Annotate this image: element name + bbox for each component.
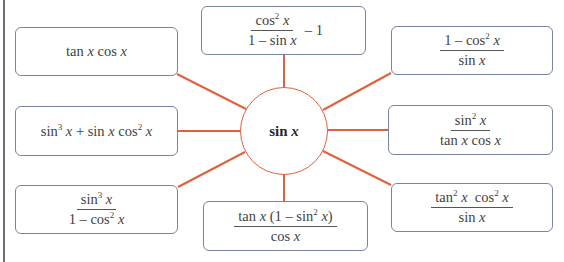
expression-box-tan-1-minus-sin2-over-cos: tan x (1 – sin2 x) cos x — [203, 201, 368, 251]
denominator: tan x cos x — [436, 131, 505, 149]
expression-box-cos2-over-1-minus-sin-minus-1: cos2 x 1 – sin x – 1 — [201, 6, 366, 55]
denominator: 1 – cos2 x — [65, 210, 129, 228]
expression-text: sin3 x + sin x cos2 x — [41, 123, 152, 140]
connector-top-left — [177, 74, 246, 109]
denominator: sin x — [455, 208, 490, 226]
numerator: 1 – cos2 x — [440, 32, 504, 51]
fraction: cos2 x 1 – sin x — [244, 12, 301, 49]
expression-box-tan-cos: tan x cos x — [15, 27, 178, 76]
fraction: tan2 x cos2 x sin x — [431, 189, 512, 226]
fraction: sin3 x 1 – cos2 x — [65, 191, 129, 228]
denominator: cos x — [267, 227, 304, 245]
center-label: sin x — [269, 123, 299, 140]
denominator: sin x — [455, 51, 490, 69]
expression-box-sin3-plus-sin-cos2: sin3 x + sin x cos2 x — [15, 106, 178, 156]
expression-box-tan2-cos2-over-sin: tan2 x cos2 x sin x — [391, 183, 553, 232]
connector-bottom-left — [178, 152, 245, 187]
center-node-sin-x: sin x — [240, 87, 328, 175]
expression-text: tan x cos x — [66, 43, 127, 60]
minus-one: – 1 — [305, 22, 323, 39]
connector-bottom-right — [323, 151, 391, 185]
fraction: sin2 x tan x cos x — [436, 112, 505, 149]
numerator: cos2 x — [251, 12, 293, 31]
numerator: sin3 x — [77, 191, 116, 210]
expression-box-sin3-over-1-minus-cos2: sin3 x 1 – cos2 x — [15, 185, 178, 234]
denominator: 1 – sin x — [244, 31, 301, 49]
expression-box-sin2-over-tan-cos: sin2 x tan x cos x — [388, 105, 553, 155]
numerator: tan x (1 – sin2 x) — [234, 208, 336, 227]
fraction: tan x (1 – sin2 x) cos x — [234, 208, 336, 245]
numerator: sin2 x — [451, 112, 490, 131]
fraction: 1 – cos2 x sin x — [440, 32, 504, 69]
numerator: tan2 x cos2 x — [431, 189, 512, 208]
expression-box-1-minus-cos2-over-sin: 1 – cos2 x sin x — [391, 26, 553, 75]
connector-top-right — [323, 73, 391, 110]
